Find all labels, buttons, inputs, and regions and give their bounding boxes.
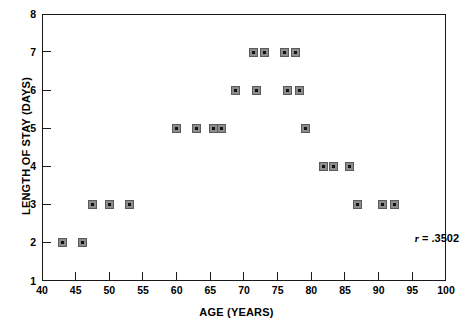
scatter-plot-figure: LENGTH OF STAY (DAYS) 12345678 404550556… [0, 0, 473, 327]
x-axis-tick-label: 45 [61, 285, 91, 296]
x-axis-tick [142, 272, 143, 281]
y-axis-tick-label: 7 [20, 47, 36, 58]
data-point [125, 200, 134, 209]
plot-area [42, 14, 446, 281]
data-point [329, 162, 338, 171]
x-axis-tick [344, 272, 345, 281]
y-axis-tick-label: 6 [20, 85, 36, 96]
y-axis-tick [42, 90, 51, 91]
data-point [301, 124, 310, 133]
y-axis-tick [42, 166, 51, 167]
x-axis-tick-label: 70 [229, 285, 259, 296]
data-point [345, 162, 354, 171]
x-axis-tick [277, 272, 278, 281]
x-axis-title: AGE (YEARS) [0, 306, 473, 318]
x-axis-tick-label: 50 [94, 285, 124, 296]
x-axis-tick-label: 60 [162, 285, 192, 296]
y-axis-tick-label: 2 [20, 237, 36, 248]
correlation-value: .3502 [431, 232, 459, 244]
data-point [378, 200, 387, 209]
data-point [252, 86, 261, 95]
y-axis-tick [42, 204, 51, 205]
correlation-annotation: r = .3502 [415, 232, 459, 244]
x-axis-tick-label: 95 [397, 285, 427, 296]
y-axis-tick-label: 4 [20, 161, 36, 172]
y-axis-tick-label: 8 [20, 9, 36, 20]
data-point [231, 86, 240, 95]
x-axis-tick-label: 75 [263, 285, 293, 296]
data-point [249, 48, 258, 57]
y-axis-tick [42, 51, 51, 52]
x-axis-tick [109, 272, 110, 281]
data-point [105, 200, 114, 209]
data-point [217, 124, 226, 133]
y-axis-tick [42, 242, 51, 243]
x-axis-tick-label: 65 [195, 285, 225, 296]
data-point [78, 238, 87, 247]
x-axis-tick-label: 100 [431, 285, 461, 296]
data-point [283, 86, 292, 95]
x-axis-tick [210, 272, 211, 281]
data-point [319, 162, 328, 171]
x-axis-tick [412, 272, 413, 281]
x-axis-tick [176, 272, 177, 281]
x-axis-tick [311, 272, 312, 281]
data-point [172, 124, 181, 133]
x-axis-tick-label: 40 [27, 285, 57, 296]
y-axis-title: LENGTH OF STAY (DAYS) [20, 36, 32, 256]
data-point [291, 48, 300, 57]
data-point [260, 48, 269, 57]
x-axis-tick-label: 90 [364, 285, 394, 296]
data-point [88, 200, 97, 209]
data-point [192, 124, 201, 133]
data-point [353, 200, 362, 209]
x-axis-tick [75, 272, 76, 281]
x-axis-tick-label: 85 [330, 285, 360, 296]
x-axis-tick-label: 80 [296, 285, 326, 296]
data-point [390, 200, 399, 209]
data-point [280, 48, 289, 57]
x-axis-tick [378, 272, 379, 281]
x-axis-tick-label: 55 [128, 285, 158, 296]
data-point [58, 238, 67, 247]
data-point [295, 86, 304, 95]
y-axis-tick-label: 5 [20, 123, 36, 134]
y-axis-tick [42, 128, 51, 129]
y-axis-tick-label: 3 [20, 199, 36, 210]
x-axis-tick [243, 272, 244, 281]
